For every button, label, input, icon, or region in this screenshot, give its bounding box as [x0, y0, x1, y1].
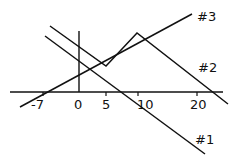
tick-label-neg7: -7 — [31, 98, 44, 111]
line-label-2: #2 — [198, 61, 217, 74]
line-label-1: #1 — [195, 133, 214, 146]
tick-label-0: 0 — [74, 98, 82, 111]
line-label-3: #3 — [197, 10, 216, 23]
line-diagram: -7 0 5 10 20 #3 #2 #1 — [0, 0, 238, 165]
tick-label-5: 5 — [102, 98, 110, 111]
tick-label-10: 10 — [137, 98, 154, 111]
line-1 — [45, 36, 205, 154]
tick-label-20: 20 — [190, 98, 207, 111]
